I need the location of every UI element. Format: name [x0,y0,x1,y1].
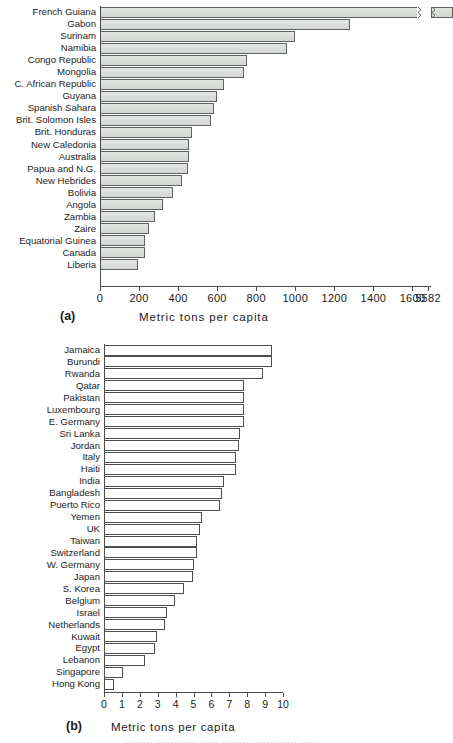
figure-a-row: Liberia [100,259,432,271]
figure-a-tick-label: 0 [97,293,103,304]
figure-a-bar [100,223,149,234]
figure-a-bar [100,247,145,258]
figure-b-category-label: Singapore [56,667,104,677]
figure-a-tick [100,287,101,291]
figure-a-tick-label: 1400 [361,293,387,304]
figure-b-category-label: Japan [74,572,104,582]
figure-a-bar [100,175,182,186]
figure-b-row: UK [104,523,283,535]
figure-a-row: Bolivia [100,187,432,199]
figure-a-category-label: Surinam [60,31,100,41]
figure-b-category-label: Puerto Rico [50,500,104,510]
figure-a-tick [256,287,257,291]
figure-b-bar [104,559,194,570]
figure-b-category-label: UK [87,524,104,534]
figure-a-category-label: Canada [62,248,100,258]
figure-b-row: Yemen [104,511,283,523]
figure-a-tick [412,287,413,291]
figure-b-tick-label: 0 [101,699,107,710]
figure-b-tick-label: 6 [208,699,214,710]
figure-a-bar [100,55,247,66]
figure-b-row: Haiti [104,463,283,475]
figure-a-bar [100,163,188,174]
figure-a-category-label: Equatorial Guinea [19,236,100,246]
figure-b-row: Sri Lanka [104,428,283,440]
figure-b-category-label: Hong Kong [52,679,104,689]
figure-b-bars: JamaicaBurundiRwandaQatarPakistanLuxembo… [104,344,283,690]
figure-a-row: Canada [100,247,432,259]
figure-a-bar [100,103,214,114]
figure-b-row: Switzerland [104,547,283,559]
figure-a-row: C. African Republic [100,78,432,90]
figure-b-bar [104,655,145,666]
figure-a-category-label: New Caledonia [31,140,100,150]
figure-b-bar [104,667,123,678]
figure-b-bar [104,524,200,535]
figure-b-bar [104,679,114,690]
figure-b-tick-label: 7 [226,699,232,710]
figure-b-tick-label: 1 [119,699,125,710]
figure-b-bar [104,392,244,403]
figure-b-bar [104,440,239,451]
figure-b-row: Singapore [104,666,283,678]
figure-a-bar [100,211,155,222]
figure-b-bar [104,643,155,654]
figure-a-category-label: Namibia [61,43,100,53]
figure-a-row: Australia [100,151,432,163]
figure-b-row: Japan [104,571,283,583]
figure-a-y-axis-spine [100,6,101,287]
figure-a-tick-label: 1200 [322,293,348,304]
figure-b-bar [104,547,197,558]
figure-b-tick-label: 2 [137,699,143,710]
figure-b-bar [104,488,222,499]
figure-a-bar [100,139,189,150]
figure-a-bar [100,79,224,90]
figure-b-tick [229,693,230,697]
figure-b-tick [247,693,248,697]
figure-b-bar [104,595,175,606]
figure-a-category-label: Zaire [74,224,100,234]
figure-b-bar [104,452,236,463]
figure-b-tick-label: 3 [155,699,161,710]
figure-a-row: Brit. Honduras [100,126,432,138]
figure-a-tick-label: 400 [168,293,187,304]
figure-a-row: Namibia [100,42,432,54]
figure-b-tick [140,693,141,697]
figure-b-row: Belgium [104,595,283,607]
figure-b-row: E. Germany [104,416,283,428]
figure-b-bar [104,571,193,582]
figure-a-category-label: Guyana [62,91,100,101]
figure-a-axis-break-glyph [417,7,426,18]
figure-b-bar [104,356,272,367]
figure-a-category-label: Angola [66,200,100,210]
figure-b-tick-label: 9 [262,699,268,710]
figure-a-category-label: Papua and N.G. [27,164,100,174]
figure-a-bars: French GuianaGabonSurinamNamibiaCongo Re… [100,6,432,271]
figure-b-row: Lebanon [104,654,283,666]
figure-b-row: W. Germany [104,559,283,571]
figure-b-category-label: Netherlands [48,620,104,630]
figure-a-category-label: French Guiana [33,7,100,17]
figure-b-row: Jamaica [104,344,283,356]
figure-a-bar-chart: French GuianaGabonSurinamNamibiaCongo Re… [0,0,444,330]
figure-a-tick [139,287,140,291]
figure-a-bar [100,19,350,30]
figure-b-category-label: Rwanda [65,369,104,379]
figure-a-bar [100,151,189,162]
figure-b-category-label: Qatar [76,381,104,391]
figure-b-category-label: Jordan [71,441,104,451]
figure-b-bar [104,368,263,379]
figure-b-row: S. Korea [104,583,283,595]
figure-a-bar [100,259,138,270]
figure-a-panel-tag: (a) [60,310,75,323]
figure-b-row: Israel [104,607,283,619]
figure-a-category-label: Liberia [67,260,100,270]
figure-b-row: Puerto Rico [104,499,283,511]
figure-b-row: Italy [104,451,283,463]
figure-b-row: Rwanda [104,368,283,380]
figure-a-bar [100,43,287,54]
figure-a-bar [100,7,417,18]
figure-a-bar [100,91,217,102]
figure-a-category-label: Spanish Sahara [28,103,100,113]
figure-b-row: Bangladesh [104,487,283,499]
